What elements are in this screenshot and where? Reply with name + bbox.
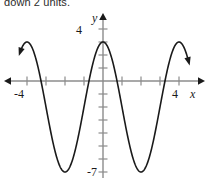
x-tick-label-neg4: -4 [14, 87, 24, 101]
curve-arrow-start-icon [19, 47, 25, 56]
y-axis-label: y [91, 11, 98, 25]
x-tick-label-4: 4 [172, 87, 178, 101]
x-axis-arrow-left-icon [4, 77, 11, 85]
y-tick-label-neg7: -7 [87, 165, 97, 179]
x-axis-arrow-right-icon [198, 77, 205, 85]
curve-arrow-end-icon [184, 57, 190, 66]
graph-figure: y x 4 -7 -4 4 [0, 0, 209, 184]
x-axis [4, 77, 205, 85]
figure-page: down 2 units. [0, 0, 209, 184]
x-axis-label: x [189, 87, 196, 101]
y-axis [99, 13, 107, 178]
y-axis-arrow-up-icon [99, 13, 107, 20]
y-tick-label-4: 4 [76, 23, 82, 37]
